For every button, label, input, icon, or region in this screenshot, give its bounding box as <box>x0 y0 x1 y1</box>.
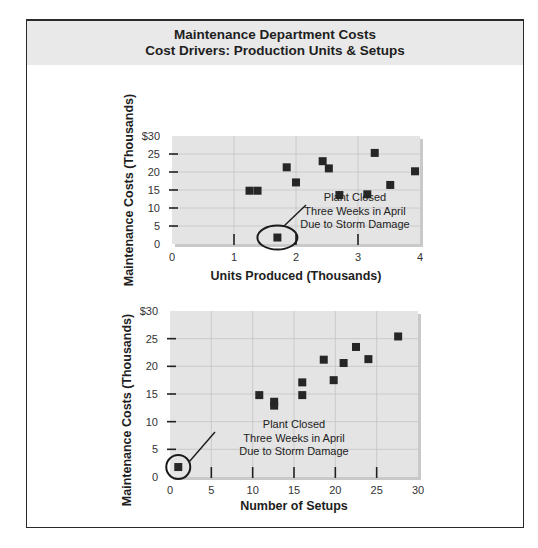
setups-chart-data-point <box>330 376 338 384</box>
setups-chart-x-axis-title: Number of Setups <box>240 499 348 513</box>
setups-chart-y-tick-label: 15 <box>146 388 158 400</box>
setups-chart-y-tick-label: 25 <box>146 333 158 345</box>
units-chart-y-tick-label: $30 <box>142 130 160 142</box>
units-chart-y-axis-title: Maintenance Costs (Thousands) <box>122 94 136 286</box>
units-chart-x-tick-label: 2 <box>293 251 299 263</box>
units-chart-y-tick-label: 10 <box>148 202 160 214</box>
setups-chart-annotation-text: Due to Storm Damage <box>239 445 348 457</box>
setups-chart-x-tick-label: 30 <box>412 484 424 496</box>
setups-chart-data-point <box>394 332 402 340</box>
setups-chart-x-tick-label: 15 <box>288 484 300 496</box>
units-chart-y-tick-label: 15 <box>148 184 160 196</box>
setups-chart-data-point <box>340 359 348 367</box>
setups-chart-data-point <box>298 391 306 399</box>
units-chart-data-point <box>371 149 379 157</box>
units-chart-annotation-text: Three Weeks in April <box>304 205 405 217</box>
units-chart-x-tick-label: 4 <box>417 251 423 263</box>
setups-chart-y-tick-label: $30 <box>140 305 158 317</box>
setups-chart-data-point <box>298 378 306 386</box>
setups-chart-data-point <box>364 355 372 363</box>
setups-chart-y-tick-label: 0 <box>152 471 158 483</box>
setups-chart-data-point <box>174 463 182 471</box>
setups-chart-y-tick-label: 5 <box>152 443 158 455</box>
units-chart-annotation-text: Plant Closed <box>324 191 386 203</box>
units-chart-y-tick-label: 20 <box>148 166 160 178</box>
units-chart-data-point <box>254 187 262 195</box>
setups-chart-annotation-text: Three Weeks in April <box>243 432 344 444</box>
setups-chart-y-tick-label: 20 <box>146 360 158 372</box>
units-chart-data-point <box>283 163 291 171</box>
units-chart-data-point <box>386 181 394 189</box>
units-chart-x-tick-label: 1 <box>231 251 237 263</box>
setups-chart-x-tick-label: 10 <box>247 484 259 496</box>
units-chart-data-point <box>292 178 300 186</box>
units-chart-y-tick-label: 25 <box>148 148 160 160</box>
setups-chart-data-point <box>320 356 328 364</box>
units-chart-x-axis-title: Units Produced (Thousands) <box>211 269 382 283</box>
setups-chart-y-tick-label: 10 <box>146 416 158 428</box>
setups-chart-annotation-text: Plant Closed <box>263 418 325 430</box>
setups-chart-x-tick-label: 5 <box>208 484 214 496</box>
setups-chart-x-tick-label: 25 <box>371 484 383 496</box>
setups-chart-y-axis-title: Maintenance Costs (Thousands) <box>120 314 134 506</box>
units-chart-x-tick-label: 0 <box>169 251 175 263</box>
charts-canvas: 0510152025$3001234Units Produced (Thousa… <box>0 0 538 548</box>
setups-chart-data-point <box>270 402 278 410</box>
units-chart-annotation-text: Due to Storm Damage <box>300 218 409 230</box>
units-chart-y-tick-label: 5 <box>154 220 160 232</box>
setups-chart-data-point <box>352 343 360 351</box>
units-chart-data-point <box>319 157 327 165</box>
setups-chart-x-tick-label: 20 <box>329 484 341 496</box>
units-chart-x-tick-label: 3 <box>355 251 361 263</box>
units-chart-data-point <box>273 234 281 242</box>
units-chart-data-point <box>411 167 419 175</box>
units-chart-data-point <box>325 164 333 172</box>
setups-chart-x-tick-label: 0 <box>167 484 173 496</box>
units-chart-y-tick-label: 0 <box>154 238 160 250</box>
units-chart-data-point <box>246 187 254 195</box>
setups-chart-data-point <box>255 391 263 399</box>
